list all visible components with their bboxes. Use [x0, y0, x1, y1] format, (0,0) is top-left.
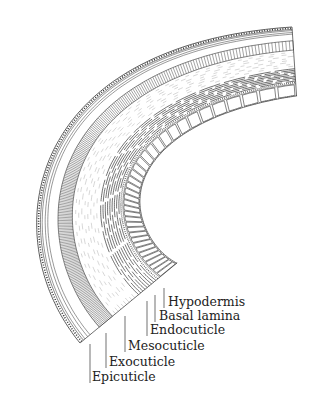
exocuticle-hatch: [62, 187, 75, 190]
exocuticle-hatch: [58, 216, 72, 217]
exocuticle-hatch: [272, 43, 273, 53]
exocuticle-hatch: [88, 304, 102, 313]
exocuticle-hatch: [58, 209, 72, 210]
exocuticle-hatch: [60, 195, 74, 198]
label-basal-lamina: Basal lamina: [159, 310, 240, 323]
exocuticle-hatch: [242, 47, 244, 57]
exocuticle-hatch: [262, 44, 263, 54]
exocuticle-hatch: [74, 152, 85, 158]
exocuticle-hatch: [73, 280, 88, 286]
exocuticle-hatch: [71, 276, 86, 282]
exocuticle-hatch: [72, 278, 87, 284]
exocuticle-hatch: [61, 191, 75, 194]
exocuticle-hatch: [161, 73, 165, 83]
hypodermis-inner-edge: [140, 96, 297, 263]
exocuticle-hatch: [95, 121, 104, 129]
exocuticle-hatch: [140, 84, 146, 94]
exocuticle-hatch: [133, 89, 139, 99]
exocuticle-hatch: [153, 77, 158, 87]
exocuticle-hatch: [58, 231, 73, 232]
exocuticle-hatch: [87, 131, 97, 139]
exocuticle-hatch: [144, 82, 149, 92]
hypodermis-cell: [126, 222, 144, 227]
exocuticle-hatch: [136, 86, 142, 96]
exocuticle-hatch: [185, 63, 188, 73]
exocuticle-hatch: [88, 129, 98, 137]
exocuticle-hatch: [63, 257, 78, 260]
exocuticle-hatch: [71, 277, 86, 283]
exocuticle-hatch: [58, 217, 72, 218]
epicuticle-outer-edge: [37, 27, 292, 343]
exocuticle-hatch: [61, 188, 74, 191]
exocuticle-hatch: [85, 134, 95, 142]
hypodermis-cell: [199, 106, 213, 122]
exocuticle-hatch: [88, 303, 102, 312]
exocuticle-hatch: [236, 49, 238, 59]
exocuticle-hatch: [164, 72, 168, 82]
exocuticle-hatch: [77, 146, 88, 153]
exocuticle-hatch: [155, 76, 160, 86]
exocuticle-hatch: [212, 54, 214, 64]
exocuticle-hatch: [188, 62, 191, 72]
exocuticle-hatch: [209, 55, 212, 65]
exocuticle-hatch: [193, 60, 196, 70]
exocuticle-hatch: [204, 57, 207, 67]
hypodermis-cell: [278, 85, 295, 98]
exocuticle-hatch: [86, 132, 96, 140]
exocuticle-hatch: [97, 119, 106, 127]
exocuticle-hatch: [146, 80, 151, 90]
exocuticle-hatch: [131, 90, 137, 100]
label-endocuticle: Endocuticle: [150, 324, 225, 337]
exocuticle-hatch: [60, 193, 74, 196]
exocuticle-hatch: [227, 51, 229, 61]
exocuticle-hatch: [265, 44, 266, 54]
exocuticle-hatch: [196, 59, 199, 69]
exocuticle-hatch: [58, 229, 73, 230]
exocuticle-hatch: [89, 305, 103, 314]
exocuticle-hatch: [94, 122, 103, 130]
exocuticle-hatch: [58, 211, 72, 212]
exocuticle-hatch: [279, 42, 280, 51]
exocuticle-hatch: [62, 183, 75, 187]
exocuticle-hatch: [252, 46, 253, 56]
exocuticle-hatch: [198, 58, 201, 68]
exocuticle-hatch: [59, 206, 73, 208]
exocuticle-hatch: [60, 241, 75, 243]
exocuticle-hatch: [86, 301, 100, 310]
hypodermis-cell: [187, 112, 201, 128]
exocuticle-hatch: [78, 144, 89, 151]
exocuticle-hatch: [135, 87, 141, 97]
exocuticle-hatch: [62, 252, 77, 255]
exocuticle-hatch: [64, 258, 79, 262]
exocuticle-hatch: [191, 61, 194, 71]
exocuticle-hatch: [63, 254, 78, 257]
exocuticle-hatch: [76, 149, 87, 155]
exocuticle-hatch: [62, 185, 75, 189]
exocuticle-hatch: [142, 83, 147, 93]
exocuticle-hatch: [83, 137, 93, 144]
exocuticle-hatch: [275, 42, 276, 51]
exocuticle-hatch: [84, 135, 94, 142]
exocuticle-hatch: [249, 46, 251, 56]
exocuticle-hatch: [224, 51, 226, 61]
exocuticle-hatch: [81, 140, 91, 147]
exocuticle-hatch: [58, 207, 72, 209]
exocuticle-hatch: [80, 141, 91, 148]
exocuticle-hatch: [59, 238, 74, 239]
label-exocuticle: Exocuticle: [109, 356, 175, 369]
exocuticle-hatch: [75, 284, 90, 291]
cuticle-layers: [37, 27, 297, 343]
outer-exocuticle-line: [45, 33, 292, 337]
outer-exocuticle-line: [48, 34, 293, 335]
exocuticle-hatch: [159, 74, 164, 84]
exocuticle-hatch: [59, 235, 74, 236]
exocuticle-hatch: [59, 232, 74, 233]
exocuticle-hatch: [207, 56, 210, 66]
exocuticle-hatch: [92, 125, 101, 133]
exocuticle-hatch: [239, 48, 241, 58]
exocuticle-hatch: [70, 274, 85, 279]
exocuticle-hatch: [138, 85, 144, 95]
exocuticle-hatch: [215, 53, 217, 63]
exocuticle-hatch: [157, 75, 162, 85]
exocuticle-hatch: [58, 214, 72, 215]
